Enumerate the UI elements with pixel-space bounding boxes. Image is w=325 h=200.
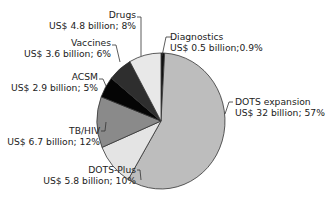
leader-drugs xyxy=(137,17,141,56)
label-tbhiv: TB/HIV US$ 6.7 billion; 12% xyxy=(7,125,100,147)
label-diagnostics-name: Diagnostics xyxy=(170,31,263,42)
label-drugs: Drugs US$ 4.8 billion; 8% xyxy=(49,9,136,31)
label-tbhiv-name: TB/HIV xyxy=(7,125,100,136)
label-acsm-value: US$ 2.9 billion; 5% xyxy=(11,82,98,93)
label-drugs-name: Drugs xyxy=(49,9,136,20)
label-vaccines-name: Vaccines xyxy=(24,37,111,48)
label-vaccines: Vaccines US$ 3.6 billion; 6% xyxy=(24,37,111,59)
label-tbhiv-value: US$ 6.7 billion; 12% xyxy=(7,136,100,147)
label-vaccines-value: US$ 3.6 billion; 6% xyxy=(24,48,111,59)
label-dotsplus: DOTS-Plus US$ 5.8 billion; 10% xyxy=(43,164,136,186)
label-acsm-name: ACSM xyxy=(11,71,98,82)
label-dotsplus-value: US$ 5.8 billion; 10% xyxy=(43,175,136,186)
label-diagnostics-value: US$ 0.5 billion;0.9% xyxy=(170,42,263,53)
label-dots-expansion-name: DOTS expansion xyxy=(235,96,325,107)
leader-vaccines xyxy=(112,45,120,62)
label-dots-expansion: DOTS expansion US$ 32 billion; 57% xyxy=(235,96,325,118)
leader-acsm xyxy=(99,79,106,86)
label-dots-expansion-value: US$ 32 billion; 57% xyxy=(235,107,325,118)
label-diagnostics: Diagnostics US$ 0.5 billion;0.9% xyxy=(170,31,263,53)
label-acsm: ACSM US$ 2.9 billion; 5% xyxy=(11,71,98,93)
label-dotsplus-name: DOTS-Plus xyxy=(43,164,136,175)
leader-dotsexp xyxy=(225,102,233,114)
label-drugs-value: US$ 4.8 billion; 8% xyxy=(49,20,136,31)
